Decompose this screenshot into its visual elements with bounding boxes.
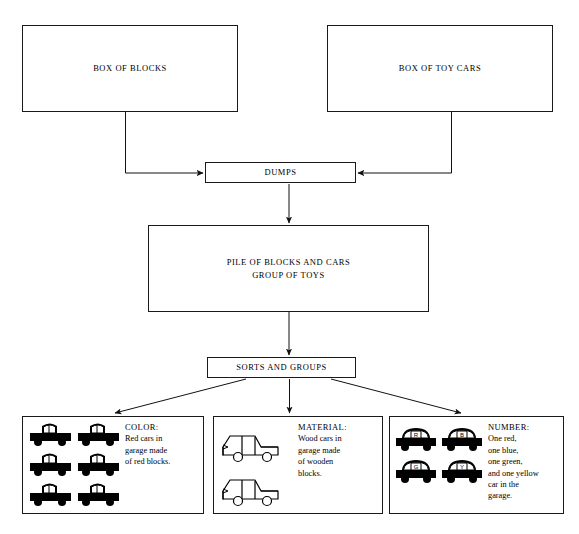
filled-car-with-letter-icon: B <box>440 424 486 456</box>
attribute-body-color: Red cars in garage made of red blocks. <box>125 433 200 467</box>
outline-pickup-truck-icon <box>218 471 296 515</box>
attribute-title-number: NUMBER: <box>488 422 560 433</box>
attribute-box-color: COLOR: Red cars in garage made of red bl… <box>22 416 204 514</box>
filled-pickup-truck-icon <box>75 421 123 451</box>
icon-pane-color <box>27 421 123 511</box>
icon-pane-material <box>218 421 296 515</box>
svg-text:B: B <box>460 432 464 438</box>
filled-car-with-letter-icon: Y <box>440 456 486 488</box>
filled-pickup-truck-icon <box>27 481 75 511</box>
diagram-canvas: BOX OF BLOCKS BOX OF TOY CARS DUMPS PILE… <box>0 0 579 534</box>
attribute-body-number: One red, one blue, one green, and one ye… <box>488 433 560 502</box>
icon-pane-number: RBGY <box>394 421 486 488</box>
node-pile: PILE OF BLOCKS AND CARS GROUP OF TOYS <box>148 225 429 312</box>
attribute-box-number: RBGY NUMBER: One red, one blue, one gree… <box>389 416 564 514</box>
text-pane-number: NUMBER: One red, one blue, one green, an… <box>486 421 560 502</box>
attribute-title-color: COLOR: <box>125 422 200 433</box>
node-box-of-toy-cars-label: BOX OF TOY CARS <box>399 62 482 74</box>
outline-pickup-truck-icon <box>218 427 296 471</box>
filled-car-with-letter-icon: G <box>394 456 440 488</box>
filled-pickup-truck-icon <box>75 481 123 511</box>
attribute-title-material: MATERIAL: <box>298 422 379 433</box>
edge-sorts-to-color <box>115 379 246 413</box>
node-box-of-toy-cars: BOX OF TOY CARS <box>327 25 553 112</box>
attribute-box-material: MATERIAL: Wood cars in garage made of wo… <box>213 416 383 514</box>
node-box-of-blocks: BOX OF BLOCKS <box>22 25 238 112</box>
filled-pickup-truck-icon <box>27 421 75 451</box>
svg-text:G: G <box>414 464 419 470</box>
node-sorts: SORTS AND GROUPS <box>207 357 356 378</box>
filled-pickup-truck-icon <box>27 451 75 481</box>
node-sorts-label: SORTS AND GROUPS <box>236 361 326 373</box>
filled-car-with-letter-icon: R <box>394 424 440 456</box>
node-dumps-label: DUMPS <box>264 166 296 178</box>
edge-blocks-to-dumps <box>126 112 204 173</box>
node-box-of-blocks-label: BOX OF BLOCKS <box>93 62 167 74</box>
svg-text:R: R <box>414 432 419 438</box>
svg-text:Y: Y <box>460 464 464 470</box>
filled-pickup-truck-icon <box>75 451 123 481</box>
attribute-body-material: Wood cars in garage made of wooden block… <box>298 433 379 479</box>
text-pane-color: COLOR: Red cars in garage made of red bl… <box>123 421 200 468</box>
node-dumps: DUMPS <box>205 162 356 183</box>
node-pile-label: PILE OF BLOCKS AND CARS GROUP OF TOYS <box>227 256 351 281</box>
text-pane-material: MATERIAL: Wood cars in garage made of wo… <box>296 421 379 479</box>
edge-sorts-to-number <box>331 379 461 413</box>
edge-toycars-to-dumps <box>358 112 452 173</box>
